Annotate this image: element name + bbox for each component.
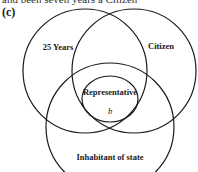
label-25-years: 25 Years (43, 42, 74, 52)
circle-25-years (23, 9, 147, 133)
label-representative: Representative (83, 87, 137, 97)
label-citizen: Citizen (148, 41, 174, 51)
inner-mark-b: b (108, 106, 112, 116)
venn-diagram (0, 0, 198, 172)
label-inhabitant-of-state: Inhabitant of state (76, 152, 143, 162)
circle-citizen (72, 9, 196, 133)
